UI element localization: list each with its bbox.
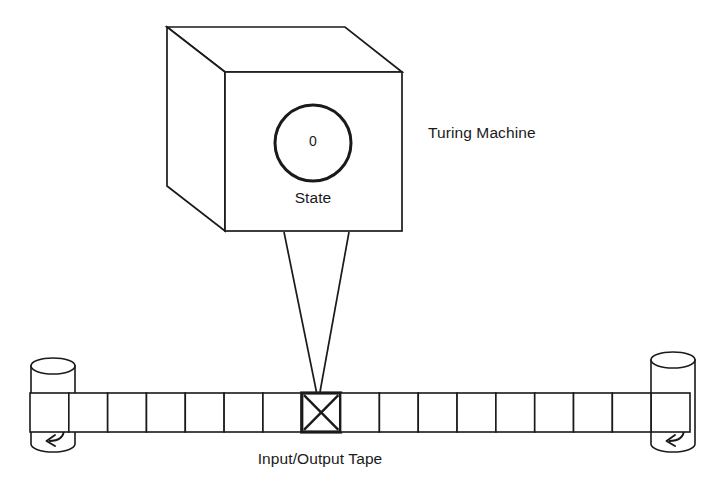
tape-cell[interactable]: [535, 393, 574, 432]
tape-cell[interactable]: [185, 393, 224, 432]
left-spool-top-ellipse: [31, 358, 75, 374]
tape-cell[interactable]: [379, 393, 418, 432]
io-tape[interactable]: [30, 393, 690, 432]
tape-cell[interactable]: [69, 393, 108, 432]
right-spool-top-ellipse: [651, 352, 695, 368]
tape-cell[interactable]: [108, 393, 147, 432]
io-tape-label: Input/Output Tape: [0, 450, 640, 468]
tape-cell[interactable]: [457, 393, 496, 432]
tape-cell[interactable]: [418, 393, 457, 432]
tape-cell[interactable]: [30, 393, 69, 432]
turing-machine-diagram: Turing Machine State 0 Input/Output Tape: [0, 0, 720, 497]
tape-cell[interactable]: [224, 393, 263, 432]
tape-cell[interactable]: [574, 393, 613, 432]
tape-cell[interactable]: [496, 393, 535, 432]
funnel-right-edge: [320, 232, 349, 392]
tape-cell[interactable]: [146, 393, 185, 432]
tape-cell[interactable]: [612, 393, 651, 432]
state-value-label: 0: [0, 133, 626, 149]
state-label: State: [0, 189, 626, 207]
read-write-head-funnel: [284, 232, 349, 392]
tape-cell[interactable]: [263, 393, 302, 432]
tape-cell[interactable]: [341, 393, 380, 432]
funnel-left-edge: [284, 232, 317, 392]
tape-cell[interactable]: [651, 393, 690, 432]
diagram-canvas: [0, 0, 720, 497]
